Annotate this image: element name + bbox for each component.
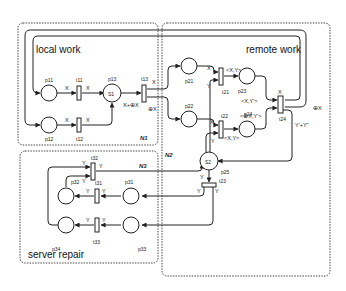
label-p22: p22 (185, 103, 194, 109)
label-t33: t33 (93, 239, 100, 245)
net-n3-label: N3 (139, 163, 147, 169)
inscr-t31-p32: Y (86, 188, 90, 194)
label-p13: p13 (108, 76, 117, 82)
place-p24 (239, 121, 255, 137)
inscr-p32-t32: Y (82, 178, 86, 184)
inscr-t24-p12: ⊕X (313, 105, 322, 111)
label-p33: p33 (138, 246, 147, 252)
inscr-t13-p22: ⊕X (148, 106, 157, 112)
net-n2-label: N2 (165, 152, 173, 158)
remote-work-title: remote work (246, 44, 302, 55)
label-t24: t24 (279, 116, 286, 122)
inscr-t23-p31: Y (197, 188, 201, 194)
inscr-t24-p25: Y'+Y" (295, 122, 309, 128)
inscr-p25-t21: Y (207, 83, 211, 89)
place-p23 (239, 68, 255, 84)
transition-t31 (95, 189, 99, 203)
place-p33 (123, 217, 139, 233)
label-p23: p23 (238, 88, 247, 94)
place-p32 (58, 188, 74, 204)
inscr-p33-t33: Y (102, 217, 106, 223)
label-t12: t12 (76, 136, 83, 142)
petri-net-diagram: local work remote work server repair N1 … (0, 0, 346, 291)
inscr-t11-p13: X (86, 85, 90, 91)
arc-t32-p25 (96, 164, 202, 171)
label-t23: t23 (219, 178, 226, 184)
inscr-p31-t31: Y (102, 188, 106, 194)
label-p34: p34 (52, 246, 61, 252)
label-p12: p12 (45, 136, 54, 142)
transition-t32 (91, 163, 95, 180)
arc-t23-p31 (142, 186, 204, 196)
arc-t23-p33 (142, 186, 213, 225)
place-p21 (181, 58, 197, 74)
inscr-p22-t22: X (210, 119, 214, 125)
inscr-p21-t21: X (207, 65, 211, 71)
inscr-p12-t12: X (65, 117, 69, 123)
inscr-t24-p11: X (278, 89, 282, 95)
inscr-t12-p13: X (86, 117, 90, 123)
inscr-t32-p25: Y (99, 163, 103, 169)
transition-t23 (202, 183, 216, 187)
token-s1: S1 (108, 91, 114, 97)
place-p34 (58, 217, 74, 233)
place-p12 (41, 117, 57, 133)
transition-t21 (219, 68, 223, 85)
token-s2: S2 (205, 159, 211, 165)
inscr-p25-t22: Y (211, 138, 215, 144)
local-work-title: local work (36, 44, 81, 55)
label-t32: t32 (91, 155, 98, 161)
label-p32: p32 (71, 179, 80, 185)
label-t11: t11 (76, 77, 83, 83)
inscr-p23-t24: <X,Y'> (241, 98, 257, 104)
arc-t13-p21 (147, 66, 180, 89)
label-p11: p11 (45, 77, 53, 83)
inscr-t23-p33: Y (215, 188, 219, 194)
inscr-p34-t32: Y (82, 160, 86, 166)
inscr-t22-p24: <X,Y> (224, 135, 239, 141)
transition-t24 (278, 96, 283, 113)
net-n1-label: N1 (140, 135, 148, 141)
label-t22: t22 (221, 113, 228, 119)
transition-t12 (77, 118, 81, 132)
local-work-region (18, 23, 158, 145)
label-p31: p31 (125, 179, 134, 185)
transition-t33 (95, 218, 99, 232)
label-p25: p25 (221, 169, 230, 175)
label-t13: t13 (141, 76, 148, 82)
transition-t22 (219, 121, 223, 138)
transition-t13 (142, 85, 146, 102)
inscr-t33-p34: Y (86, 217, 90, 223)
inscr-p25-t23: Y (200, 174, 204, 180)
label-t31: t31 (95, 180, 102, 186)
inscr-t21-p23: <X,Y> (226, 67, 241, 73)
transition-t11 (77, 86, 81, 100)
inscr-p13-t13: X+⊕X (123, 102, 139, 108)
place-p31 (123, 188, 139, 204)
inscr-p11-t11: X (65, 85, 69, 91)
label-p21: p21 (185, 78, 194, 84)
inscr-p24-t24: <⊕X,Y'> (240, 113, 261, 119)
arc-p22-t22 (197, 119, 218, 125)
place-p22 (181, 111, 197, 127)
arc-p23-t24 (255, 76, 277, 100)
inscr-t13-p21: X (152, 79, 156, 85)
label-t21: t21 (222, 89, 229, 95)
place-p11 (41, 85, 57, 101)
